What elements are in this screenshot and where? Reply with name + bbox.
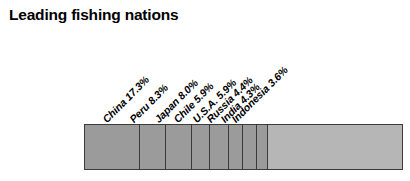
stacked-bar: [84, 124, 403, 170]
bar-segment-india: [243, 125, 257, 169]
bar-segment-indonesia: [257, 125, 268, 169]
bar-segment-chile: [192, 125, 211, 169]
bar-segment-japan: [166, 125, 191, 169]
category-labels: China 17.3%Peru 8.3%Japan 8.0%Chile 5.9%…: [0, 0, 410, 124]
fishing-nations-chart: Leading fishing nations China 17.3%Peru …: [0, 0, 410, 181]
bar-segment-russia: [229, 125, 243, 169]
bar-segment-others: [268, 125, 402, 169]
bar-segment-peru: [140, 125, 166, 169]
bar-segment-u-s-a: [210, 125, 229, 169]
bar-segment-china: [85, 125, 140, 169]
